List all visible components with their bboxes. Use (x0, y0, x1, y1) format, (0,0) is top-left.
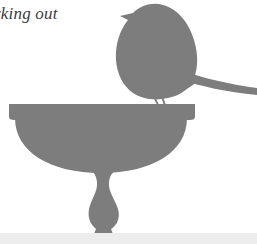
birdbath-group (9, 104, 195, 237)
birdbath-bowl (15, 118, 187, 173)
birdbath-pedestal (81, 166, 126, 231)
bird-birdbath-illustration: bird perched on birdbath silhouette (0, 0, 257, 244)
bird-group (116, 4, 257, 114)
caption-text: rking out (0, 4, 58, 24)
illustration-page: bird perched on birdbath silhouette r (0, 0, 257, 244)
ground-line (0, 233, 257, 244)
